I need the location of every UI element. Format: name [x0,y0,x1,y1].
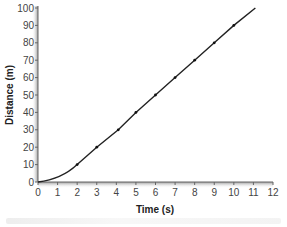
y-tick-label: 30 [23,124,35,135]
data-point [174,76,177,79]
x-tick-label: 7 [172,187,178,198]
distance-line [38,8,255,182]
data-point [76,163,79,166]
y-tick-label: 40 [23,107,35,118]
y-tick-label: 0 [28,177,34,188]
y-tick-label: 90 [23,20,35,31]
data-point [95,146,98,149]
distance-time-chart: 01234567891011120102030405060708090100 T… [0,0,287,227]
x-tick-label: 3 [94,187,100,198]
y-tick-label: 100 [17,3,34,14]
data-point [232,24,235,27]
y-axis-title: Distance (m) [4,65,15,125]
x-tick-label: 4 [114,187,120,198]
x-tick-label: 9 [211,187,217,198]
x-tick-label: 10 [228,187,240,198]
y-tick-label: 10 [23,159,35,170]
plot-area [38,8,255,182]
y-tick-label: 50 [23,90,35,101]
x-tick-label: 5 [133,187,139,198]
axes: 01234567891011120102030405060708090100 [17,3,279,199]
y-tick-label: 80 [23,37,35,48]
y-tick-label: 60 [23,72,35,83]
data-point [135,111,138,114]
x-tick-label: 8 [192,187,198,198]
x-tick-label: 1 [55,187,61,198]
x-tick-label: 12 [267,187,279,198]
x-tick-label: 11 [248,187,259,198]
caption-faded [6,218,281,224]
data-point [154,94,157,97]
x-axis-title: Time (s) [136,204,174,215]
data-point [213,41,216,44]
data-point [117,128,120,131]
data-point [193,59,196,62]
x-tick-label: 2 [74,187,80,198]
y-tick-label: 20 [23,142,35,153]
x-tick-label: 6 [153,187,159,198]
x-tick-label: 0 [35,187,41,198]
y-tick-label: 70 [23,55,35,66]
